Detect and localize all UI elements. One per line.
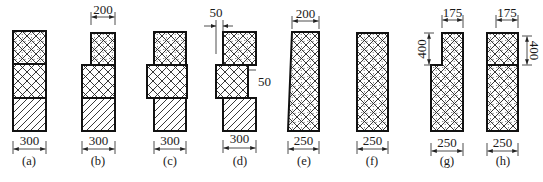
dimension-175: 175 xyxy=(442,5,463,28)
section-block-cross xyxy=(147,65,187,98)
section-block-diag xyxy=(82,98,115,131)
dimension-label: 300 xyxy=(89,133,109,148)
wall-section-diagram: 300(a)200300(b)300(c)5050300(d)200250(e)… xyxy=(0,0,543,182)
section-block-diag xyxy=(223,98,256,131)
dimension-label: 300 xyxy=(230,131,250,146)
dimension-label: 300 xyxy=(20,133,40,148)
dimension-200: 200 xyxy=(91,2,115,25)
dimension-label: 250 xyxy=(437,135,457,150)
dimension-label: 400 xyxy=(414,39,429,59)
dimension-label: 175 xyxy=(497,5,517,20)
panel-caption: (e) xyxy=(297,154,311,168)
dimension-250: 250 xyxy=(431,135,463,156)
section-block-cross xyxy=(13,64,46,98)
dimension-400: 400 xyxy=(522,36,542,65)
panel-h: 175400250(h) xyxy=(487,5,542,168)
panel-caption: (h) xyxy=(496,154,511,168)
dimension-label: 300 xyxy=(160,133,180,148)
dimension-200: 200 xyxy=(292,6,319,29)
panel-caption: (d) xyxy=(233,154,248,168)
dimension-300: 300 xyxy=(13,133,46,154)
dimension-label: 250 xyxy=(294,133,314,148)
panel-b: 200300(b) xyxy=(82,2,115,168)
panel-a: 300(a) xyxy=(13,31,46,168)
dimension-300: 300 xyxy=(154,133,186,154)
panel-e: 200250(e) xyxy=(288,6,319,168)
section-block-dotted xyxy=(91,33,115,65)
panel-g: 175400250(g) xyxy=(414,5,463,168)
section-block-diag xyxy=(154,98,186,131)
panel-caption: (b) xyxy=(91,154,106,168)
dimension-50: 50 xyxy=(248,66,271,89)
panel-caption: (a) xyxy=(22,154,36,168)
dimension-label: 250 xyxy=(363,133,383,148)
dimension-300: 300 xyxy=(223,131,256,153)
panels-group: 300(a)200300(b)300(c)5050300(d)200250(e)… xyxy=(13,2,542,168)
dimension-400: 400 xyxy=(414,33,434,65)
section-block-dotted xyxy=(487,65,518,131)
dimension-label: 175 xyxy=(443,5,463,20)
panel-c: 300(c) xyxy=(147,32,187,168)
dimension-250: 250 xyxy=(288,133,319,154)
dimension-label: 200 xyxy=(93,2,113,17)
dimension-250: 250 xyxy=(487,135,518,156)
section-shape-trapezoid xyxy=(288,32,319,131)
section-block-cross xyxy=(216,65,248,98)
section-block-dotted xyxy=(487,33,518,65)
dimension-label: 400 xyxy=(527,41,542,61)
panel-caption: (c) xyxy=(163,154,177,168)
dimension-label: 250 xyxy=(493,135,513,150)
dimension-label: 200 xyxy=(296,6,316,21)
panel-caption: (f) xyxy=(366,154,379,168)
dimension-label: 50 xyxy=(210,5,223,20)
diagram-svg: 300(a)200300(b)300(c)5050300(d)200250(e)… xyxy=(0,0,543,182)
section-shape-notched xyxy=(431,33,463,131)
section-block-cross xyxy=(82,65,115,98)
dimension-label: 50 xyxy=(258,74,271,89)
dimension-300: 300 xyxy=(82,133,115,154)
section-block-diag xyxy=(13,98,46,131)
dimension-250: 250 xyxy=(357,133,388,154)
section-block-dotted xyxy=(13,31,46,64)
section-block-dotted xyxy=(357,33,388,131)
section-block-dotted xyxy=(154,32,186,65)
panel-d: 5050300(d) xyxy=(204,5,271,168)
section-block-dotted xyxy=(223,32,256,65)
panel-f: 250(f) xyxy=(357,33,388,168)
dimension-175: 175 xyxy=(496,5,518,28)
panel-caption: (g) xyxy=(440,154,455,168)
